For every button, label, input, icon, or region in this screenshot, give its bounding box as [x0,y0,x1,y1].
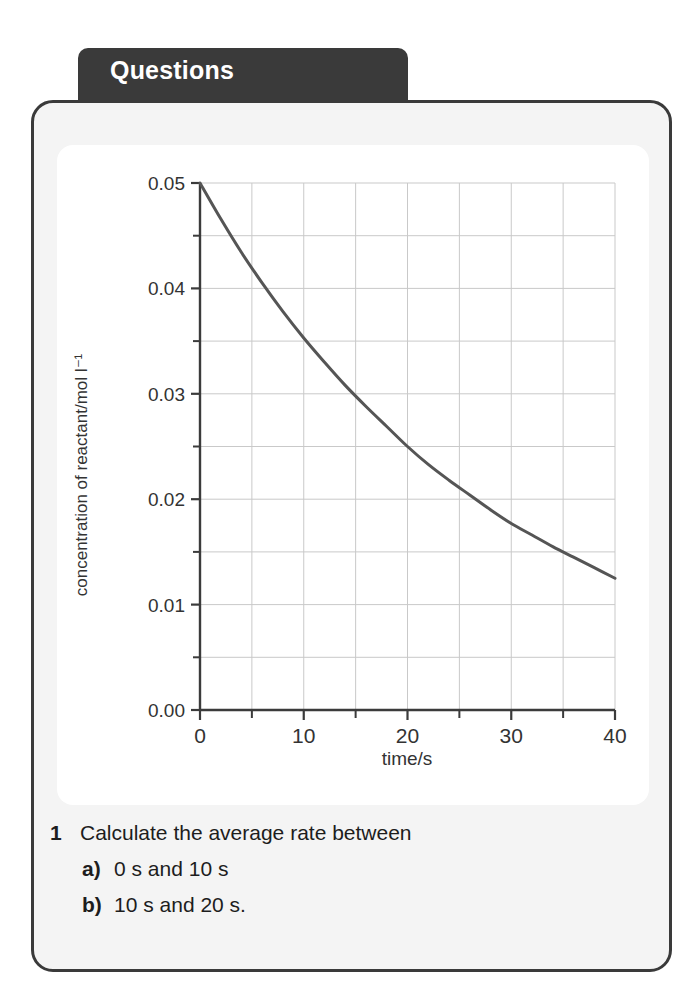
question-part-a: a) 0 s and 10 s [34,857,669,881]
concentration-time-chart: 010203040 0.000.010.020.030.040.05 time/… [57,145,649,805]
question-part-b-marker: b) [82,893,114,917]
x-tick-label: 30 [500,724,523,747]
question-card: 010203040 0.000.010.020.030.040.05 time/… [31,100,672,972]
y-tick-label: 0.05 [148,173,185,194]
question-part-b: b) 10 s and 20 s. [34,893,669,917]
question-number: 1 [50,821,80,845]
chart-x-tick-labels: 010203040 [194,724,627,747]
x-tick-label: 0 [194,724,206,747]
x-axis-title: time/s [382,748,433,769]
question-stem-text: Calculate the average rate between [80,821,412,845]
y-axis-title: concentration of reactant/mol l⁻¹ [72,353,91,596]
chart-y-tick-labels: 0.000.010.020.030.040.05 [148,173,185,721]
y-tick-label: 0.03 [148,384,185,405]
questions-tab: Questions [78,48,408,103]
chart-panel: 010203040 0.000.010.020.030.040.05 time/… [57,145,649,805]
y-tick-label: 0.04 [148,278,185,299]
x-tick-label: 20 [396,724,419,747]
question-part-a-text: 0 s and 10 s [114,857,228,881]
chart-axis-ticks [191,183,615,720]
y-tick-label: 0.01 [148,595,185,616]
question-list: 1 Calculate the average rate between a) … [34,821,669,929]
x-tick-label: 10 [292,724,315,747]
question-part-b-text: 10 s and 20 s. [114,893,246,917]
question-stem-row: 1 Calculate the average rate between [34,821,669,845]
question-part-a-marker: a) [82,857,114,881]
y-tick-label: 0.00 [148,700,185,721]
y-tick-label: 0.02 [148,489,185,510]
x-tick-label: 40 [603,724,626,747]
questions-tab-label: Questions [110,56,234,85]
